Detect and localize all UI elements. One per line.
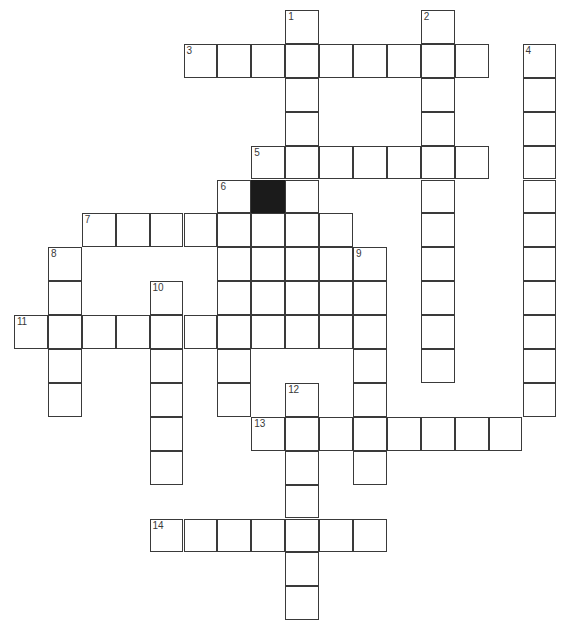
crossword-cell[interactable] (116, 213, 150, 247)
crossword-cell[interactable] (353, 519, 387, 553)
crossword-cell[interactable] (48, 281, 82, 315)
crossword-cell[interactable] (421, 417, 455, 451)
crossword-cell[interactable] (387, 146, 421, 180)
crossword-cell[interactable]: 10 (150, 281, 184, 315)
crossword-cell[interactable] (285, 213, 319, 247)
crossword-cell[interactable] (319, 315, 353, 349)
crossword-cell[interactable] (455, 417, 489, 451)
crossword-cell[interactable] (455, 146, 489, 180)
crossword-cell[interactable] (319, 247, 353, 281)
crossword-cell[interactable] (150, 349, 184, 383)
crossword-cell[interactable] (48, 315, 82, 349)
crossword-cell[interactable] (217, 519, 251, 553)
crossword-cell[interactable] (319, 146, 353, 180)
crossword-cell[interactable] (285, 281, 319, 315)
crossword-cell[interactable] (523, 146, 557, 180)
crossword-cell[interactable] (217, 383, 251, 417)
crossword-cell[interactable] (285, 315, 319, 349)
crossword-cell[interactable]: 9 (353, 247, 387, 281)
crossword-grid[interactable]: 1234567891011121314 (0, 0, 561, 620)
crossword-cell[interactable] (285, 586, 319, 620)
crossword-cell[interactable] (421, 112, 455, 146)
crossword-cell[interactable] (285, 519, 319, 553)
crossword-cell[interactable] (523, 315, 557, 349)
crossword-cell[interactable]: 5 (251, 146, 285, 180)
crossword-cell[interactable] (217, 213, 251, 247)
crossword-cell[interactable] (489, 417, 523, 451)
crossword-cell[interactable] (150, 315, 184, 349)
crossword-cell[interactable] (285, 451, 319, 485)
crossword-cell[interactable] (116, 315, 150, 349)
crossword-cell[interactable] (421, 180, 455, 214)
crossword-cell[interactable] (353, 44, 387, 78)
crossword-cell[interactable] (421, 146, 455, 180)
crossword-cell[interactable] (285, 112, 319, 146)
crossword-cell[interactable] (353, 281, 387, 315)
crossword-cell[interactable] (150, 451, 184, 485)
crossword-cell[interactable]: 2 (421, 10, 455, 44)
crossword-cell[interactable] (217, 349, 251, 383)
crossword-cell[interactable] (217, 281, 251, 315)
crossword-cell[interactable] (251, 519, 285, 553)
crossword-cell[interactable] (285, 44, 319, 78)
crossword-cell[interactable] (353, 315, 387, 349)
crossword-cell[interactable] (353, 146, 387, 180)
crossword-cell[interactable] (285, 180, 319, 214)
crossword-cell[interactable] (285, 146, 319, 180)
crossword-cell[interactable] (184, 315, 218, 349)
crossword-cell[interactable] (523, 78, 557, 112)
crossword-cell[interactable] (523, 213, 557, 247)
crossword-cell[interactable] (217, 247, 251, 281)
crossword-cell[interactable] (251, 213, 285, 247)
crossword-cell[interactable] (319, 417, 353, 451)
crossword-cell[interactable]: 14 (150, 519, 184, 553)
crossword-cell[interactable] (251, 44, 285, 78)
crossword-cell[interactable] (150, 417, 184, 451)
crossword-cell[interactable] (319, 281, 353, 315)
crossword-cell[interactable] (523, 247, 557, 281)
crossword-cell[interactable] (285, 552, 319, 586)
crossword-cell[interactable] (455, 44, 489, 78)
crossword-cell[interactable] (150, 383, 184, 417)
crossword-cell[interactable] (421, 213, 455, 247)
crossword-cell[interactable]: 4 (523, 44, 557, 78)
crossword-cell[interactable] (421, 247, 455, 281)
crossword-cell[interactable]: 13 (251, 417, 285, 451)
crossword-cell[interactable] (319, 519, 353, 553)
crossword-cell[interactable] (421, 349, 455, 383)
crossword-cell[interactable] (353, 451, 387, 485)
crossword-cell[interactable] (421, 281, 455, 315)
crossword-cell[interactable]: 3 (184, 44, 218, 78)
crossword-cell[interactable] (353, 417, 387, 451)
crossword-cell[interactable]: 7 (82, 213, 116, 247)
crossword-cell[interactable]: 1 (285, 10, 319, 44)
crossword-cell[interactable] (184, 519, 218, 553)
crossword-cell[interactable] (82, 315, 116, 349)
crossword-cell[interactable] (285, 485, 319, 519)
crossword-cell[interactable] (523, 112, 557, 146)
crossword-cell[interactable] (48, 349, 82, 383)
crossword-cell[interactable] (48, 383, 82, 417)
crossword-cell[interactable] (523, 281, 557, 315)
crossword-cell[interactable] (251, 315, 285, 349)
crossword-cell[interactable] (387, 44, 421, 78)
crossword-cell[interactable] (353, 383, 387, 417)
crossword-cell[interactable] (251, 281, 285, 315)
crossword-cell[interactable] (217, 44, 251, 78)
crossword-cell[interactable] (217, 315, 251, 349)
crossword-cell[interactable]: 11 (14, 315, 48, 349)
crossword-cell[interactable] (523, 383, 557, 417)
crossword-cell[interactable] (523, 349, 557, 383)
crossword-cell[interactable]: 6 (217, 180, 251, 214)
crossword-cell[interactable] (353, 349, 387, 383)
crossword-cell[interactable] (285, 417, 319, 451)
crossword-cell[interactable]: 8 (48, 247, 82, 281)
crossword-cell[interactable] (421, 44, 455, 78)
crossword-cell[interactable] (319, 213, 353, 247)
crossword-cell[interactable] (285, 78, 319, 112)
crossword-cell[interactable] (251, 247, 285, 281)
crossword-cell[interactable] (319, 44, 353, 78)
crossword-cell[interactable] (421, 315, 455, 349)
crossword-cell[interactable] (421, 78, 455, 112)
crossword-cell[interactable]: 12 (285, 383, 319, 417)
